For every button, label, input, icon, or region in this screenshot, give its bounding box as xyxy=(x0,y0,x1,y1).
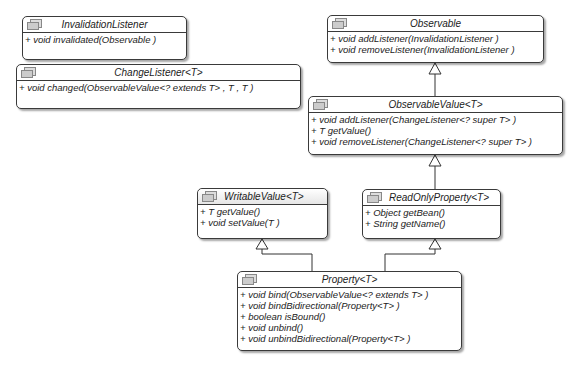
class-property[interactable]: Property<T> + void bind(ObservableValue<… xyxy=(237,271,462,351)
operation: + boolean isBound() xyxy=(240,311,459,322)
operation: + void addListener(ChangeListener<? supe… xyxy=(311,114,560,125)
operation: + Object getBean() xyxy=(365,207,498,218)
class-name: InvalidationListener xyxy=(23,17,186,32)
class-observable-value[interactable]: ObservableValue<T> + void addListener(Ch… xyxy=(308,96,563,155)
operation: + void bind(ObservableValue<? extends T>… xyxy=(240,289,459,300)
class-icon xyxy=(202,191,216,201)
class-name: Property<T> xyxy=(238,272,461,287)
class-name: Observable xyxy=(328,16,543,31)
operation: + void unbind() xyxy=(240,322,459,333)
class-invalidation-listener[interactable]: InvalidationListener + void invalidated(… xyxy=(22,16,187,60)
operation: + void unbindBidirectional(Property<T> ) xyxy=(240,333,459,344)
class-icon xyxy=(367,192,381,202)
operation: + void removeListener(ChangeListener<? s… xyxy=(311,136,560,147)
class-name: ChangeListener<T> xyxy=(17,65,300,80)
operation: + void bindBidirectional(Property<T> ) xyxy=(240,300,459,311)
operation: + T getValue() xyxy=(311,125,560,136)
class-name: ObservableValue<T> xyxy=(309,97,562,112)
class-read-only-property[interactable]: ReadOnlyProperty<T> + Object getBean() +… xyxy=(362,189,501,239)
class-name: WritableValue<T> xyxy=(224,189,327,204)
operation: + void invalidated(Observable ) xyxy=(25,34,184,45)
operation: + void removeListener(InvalidationListen… xyxy=(330,44,541,55)
class-observable[interactable]: Observable + void addListener(Invalidati… xyxy=(327,15,544,63)
operation: + void changed(ObservableValue<? extends… xyxy=(19,82,298,93)
class-name: ReadOnlyProperty<T> xyxy=(389,190,500,205)
operation: + void addListener(InvalidationListener … xyxy=(330,33,541,44)
class-writable-value[interactable]: WritableValue<T> + T getValue() + void s… xyxy=(197,188,328,239)
operation: + String getName() xyxy=(365,218,498,229)
class-change-listener[interactable]: ChangeListener<T> + void changed(Observa… xyxy=(16,64,301,109)
operation: + void setValue(T ) xyxy=(200,217,325,228)
operation: + T getValue() xyxy=(200,206,325,217)
